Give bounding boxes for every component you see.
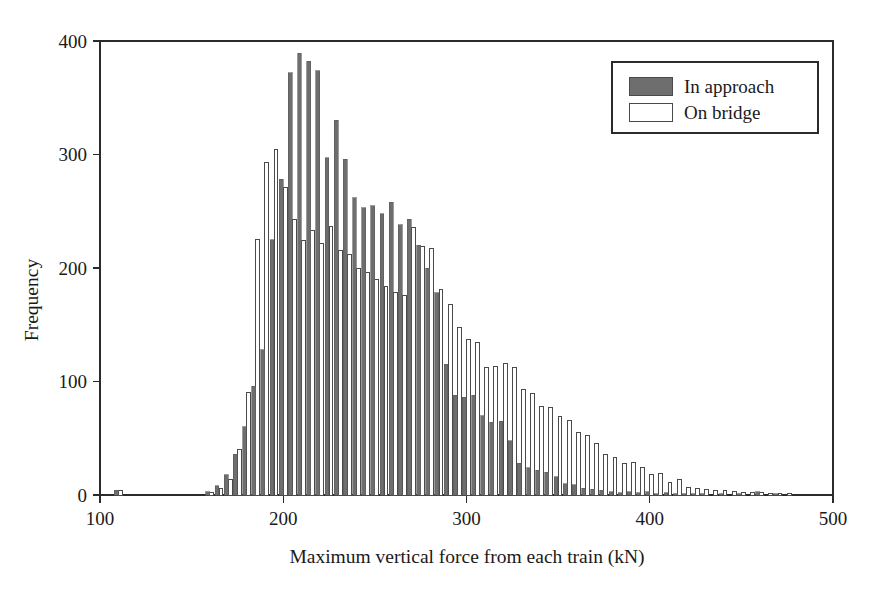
bar-in-approach [600, 490, 604, 495]
chart-canvas: 0100200300400 100200300400500 Frequency … [0, 0, 876, 590]
bar-in-approach [637, 493, 641, 495]
bar-in-approach [499, 421, 503, 495]
bar-in-approach [279, 179, 283, 495]
x-tick-label: 400 [636, 508, 665, 529]
bar-on-bridge [650, 475, 654, 495]
y-tick-label: 200 [59, 258, 88, 279]
bar-in-approach [435, 293, 439, 495]
bar-on-bridge [567, 420, 571, 495]
bar-in-approach [362, 208, 366, 495]
histogram-figure: 0100200300400 100200300400500 Frequency … [0, 0, 876, 590]
x-tick-label: 200 [269, 508, 298, 529]
bar-in-approach [243, 427, 247, 495]
legend-label-in-approach: In approach [684, 76, 775, 97]
bar-in-approach [444, 364, 448, 495]
bar-on-bridge [210, 493, 214, 495]
bar-in-approach [701, 494, 705, 495]
bar-in-approach [508, 441, 512, 495]
bar-on-bridge [521, 389, 525, 495]
bar-on-bridge [375, 279, 379, 495]
bar-in-approach [261, 350, 265, 495]
bar-in-approach [490, 422, 494, 495]
bar-on-bridge [659, 473, 663, 495]
bar-in-approach [692, 494, 696, 495]
bar-in-approach [609, 492, 613, 495]
bar-on-bridge [631, 462, 635, 495]
bar-on-bridge [787, 494, 791, 495]
bar-on-bridge [549, 408, 553, 495]
bar-in-approach [481, 416, 485, 495]
y-tick-label: 100 [59, 371, 88, 392]
bar-on-bridge [274, 150, 278, 495]
bar-on-bridge [705, 489, 709, 495]
bar-in-approach [417, 245, 421, 495]
bar-in-approach [353, 198, 357, 495]
bar-in-approach [371, 206, 375, 495]
bar-on-bridge [256, 240, 260, 495]
bar-on-bridge [723, 490, 727, 495]
bar-in-approach [545, 472, 549, 495]
bar-on-bridge [696, 488, 700, 495]
bar-on-bridge [540, 406, 544, 495]
bar-on-bridge [586, 436, 590, 495]
bar-in-approach [252, 386, 256, 495]
bar-in-approach [298, 53, 302, 495]
bar-on-bridge [320, 243, 324, 495]
bar-on-bridge [457, 327, 461, 495]
bar-in-approach [682, 494, 686, 495]
bar-in-approach [206, 492, 210, 495]
bar-on-bridge [604, 454, 608, 495]
bar-on-bridge [467, 340, 471, 496]
bar-on-bridge [237, 450, 241, 495]
y-axis-ticks: 0100200300400 [59, 31, 101, 506]
bar-on-bridge [714, 490, 718, 495]
bar-on-bridge [384, 286, 388, 495]
bar-on-bridge [576, 433, 580, 495]
bar-in-approach [618, 493, 622, 495]
bar-on-bridge [402, 295, 406, 495]
bar-on-bridge [668, 483, 672, 495]
x-tick-label: 300 [452, 508, 481, 529]
bar-in-approach [719, 494, 723, 495]
bar-on-bridge [558, 417, 562, 495]
bar-in-approach [114, 490, 118, 495]
bar-on-bridge [531, 394, 535, 495]
bar-on-bridge [439, 290, 443, 495]
bar-in-approach [407, 219, 411, 495]
bar-on-bridge [292, 219, 296, 495]
y-tick-label: 0 [78, 485, 88, 506]
bar-in-approach [591, 489, 595, 495]
bar-on-bridge [503, 363, 507, 495]
bar-on-bridge [732, 492, 736, 495]
bar-on-bridge [347, 254, 351, 495]
bar-on-bridge [118, 490, 122, 495]
bar-on-bridge [613, 458, 617, 495]
bar-in-approach [774, 494, 778, 495]
bar-on-bridge [265, 162, 269, 495]
bar-on-bridge [302, 241, 306, 495]
y-tick-label: 300 [59, 144, 88, 165]
bar-in-approach [389, 202, 393, 495]
bar-in-approach [627, 492, 631, 495]
bar-in-approach [325, 158, 329, 495]
bar-in-approach [517, 463, 521, 495]
bar-on-bridge [219, 488, 223, 495]
bar-in-approach [343, 159, 347, 495]
bar-in-approach [655, 494, 659, 495]
bar-on-bridge [641, 468, 645, 495]
bar-on-bridge [686, 487, 690, 495]
bar-in-approach [554, 477, 558, 495]
bar-on-bridge [485, 368, 489, 495]
bar-in-approach [233, 454, 237, 495]
bar-in-approach [224, 475, 228, 495]
x-tick-label: 100 [86, 508, 115, 529]
bar-in-approach [536, 470, 540, 495]
bar-in-approach [646, 492, 650, 495]
bar-in-approach [398, 225, 402, 495]
x-axis-title: Maximum vertical force from each train (… [289, 546, 644, 568]
bar-on-bridge [751, 493, 755, 495]
bar-in-approach [288, 73, 292, 495]
bar-on-bridge [595, 444, 599, 495]
x-axis-ticks: 100200300400500 [86, 495, 848, 529]
bar-in-approach [673, 494, 677, 495]
